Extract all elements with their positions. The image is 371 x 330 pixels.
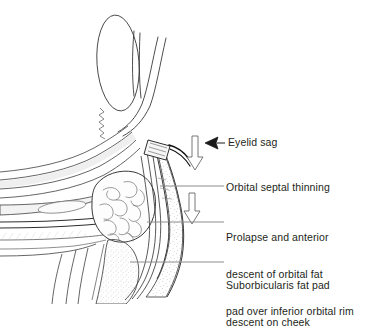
muscle-cross-section <box>38 199 87 216</box>
upper-lid-posterior-lamella <box>123 38 166 136</box>
levator-aponeurosis <box>133 31 135 96</box>
annotation-orbital-septal-thinning: Orbital septal thinning <box>226 181 330 193</box>
orbital-roof-line-1 <box>0 126 128 172</box>
eyelashes-upper <box>169 145 189 159</box>
annotation-suborbicularis-line-1: Suborbicularis fat pad <box>226 279 330 291</box>
annotation-eyelid-sag: Eyelid sag <box>228 136 277 148</box>
orbital-fat-pad-group <box>92 171 156 242</box>
annotation-suborbicularis-line-2: descent on cheek <box>226 316 330 328</box>
cheek-soft-tissue-group <box>0 244 96 304</box>
annotation-suborbicularis-fat-pad: Suborbicularis fat pad descent on cheek <box>226 255 330 330</box>
eyelid-sag-arrowhead-shape <box>205 137 218 149</box>
annotation-prolapse-line-1: Prolapse and anterior <box>226 231 354 243</box>
nasolabial-line <box>78 248 88 304</box>
superior-fornix <box>99 108 105 139</box>
descent-arrow-lower-shape <box>184 193 200 224</box>
cheek-contour-vertical-2 <box>66 250 76 304</box>
eyeball-globe <box>94 14 143 113</box>
suborbicularis-fat-group <box>92 240 139 305</box>
eyelid-sag-arrowhead <box>205 137 225 149</box>
upper-eyelid-group <box>118 31 166 136</box>
globe-group <box>94 14 143 113</box>
fornix-zigzag <box>99 108 105 139</box>
levator-muscle-edge <box>139 33 141 98</box>
maxilla-contour <box>0 240 106 249</box>
cheek-contour-upper <box>0 244 96 256</box>
cheek-contour-vertical <box>52 254 62 304</box>
descent-arrow-lower <box>184 193 200 224</box>
suborbicularis-oculi-fat <box>96 240 139 305</box>
